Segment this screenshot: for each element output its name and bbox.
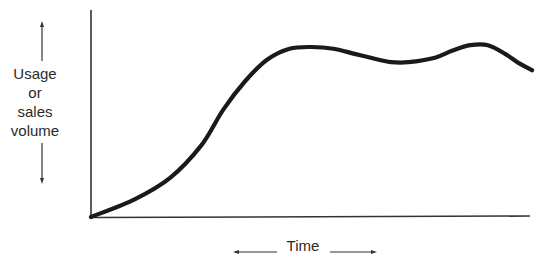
y-arrow-up-icon bbox=[40, 21, 44, 61]
ylabel-line: Usage bbox=[2, 64, 68, 83]
y-axis-label: Usage or sales volume bbox=[2, 64, 68, 140]
x-axis bbox=[91, 216, 530, 218]
ylabel-line: sales bbox=[2, 102, 68, 121]
ylabel-line: volume bbox=[2, 121, 68, 140]
x-axis-label: Time bbox=[0, 237, 544, 254]
usage-curve bbox=[91, 44, 532, 217]
xlabel-text: Time bbox=[287, 237, 320, 254]
ylabel-line: or bbox=[2, 83, 68, 102]
chart-canvas bbox=[0, 0, 544, 271]
y-arrow-down-icon bbox=[40, 143, 44, 184]
